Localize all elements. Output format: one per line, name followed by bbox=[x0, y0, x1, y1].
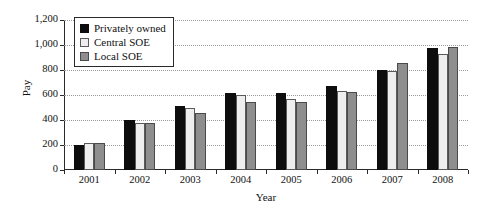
bar[interactable] bbox=[286, 99, 296, 170]
bar[interactable] bbox=[347, 92, 357, 170]
y-axis-tick-label: 400 bbox=[22, 114, 58, 124]
x-axis-tick-label: 2002 bbox=[129, 174, 150, 185]
legend-item[interactable]: Privately owned bbox=[80, 21, 166, 35]
x-axis-tick-label: 2006 bbox=[331, 174, 352, 185]
bar-group bbox=[225, 20, 256, 170]
bar-group bbox=[326, 20, 357, 170]
bar[interactable] bbox=[387, 71, 397, 170]
x-axis-tick-label: 2001 bbox=[79, 174, 100, 185]
legend-swatch-icon bbox=[80, 52, 89, 61]
x-axis-tick-label: 2008 bbox=[432, 174, 453, 185]
bar[interactable] bbox=[276, 93, 286, 171]
bar[interactable] bbox=[427, 48, 437, 171]
bar[interactable] bbox=[296, 102, 306, 170]
bar[interactable] bbox=[377, 70, 387, 170]
y-axis-tick-label: 1,200 bbox=[22, 14, 58, 24]
bar[interactable] bbox=[135, 123, 145, 170]
x-axis-label: Year bbox=[64, 191, 468, 203]
legend-label: Local SOE bbox=[94, 50, 143, 62]
bar[interactable] bbox=[185, 108, 195, 170]
legend-label: Central SOE bbox=[94, 36, 150, 48]
bar[interactable] bbox=[397, 63, 407, 171]
legend-label: Privately owned bbox=[94, 22, 166, 34]
bar[interactable] bbox=[84, 143, 94, 171]
x-axis-tick-label: 2007 bbox=[382, 174, 403, 185]
legend-swatch-icon bbox=[80, 38, 89, 47]
bar[interactable] bbox=[175, 106, 185, 170]
bar[interactable] bbox=[94, 143, 104, 171]
bar[interactable] bbox=[236, 95, 246, 170]
bar[interactable] bbox=[246, 102, 256, 170]
chart-legend: Privately ownedCentral SOELocal SOE bbox=[74, 17, 174, 67]
legend-item[interactable]: Central SOE bbox=[80, 35, 166, 49]
bar[interactable] bbox=[145, 123, 155, 171]
x-axis-tick-label: 2005 bbox=[281, 174, 302, 185]
bar-group bbox=[276, 20, 307, 170]
y-axis-tick-label: 200 bbox=[22, 139, 58, 149]
bar-chart-figure: Pay 02004006008001,0001,200 200120022003… bbox=[0, 0, 482, 214]
x-axis-tick-label: 2003 bbox=[180, 174, 201, 185]
bar[interactable] bbox=[326, 86, 336, 170]
bar[interactable] bbox=[124, 120, 134, 170]
bar-group bbox=[427, 20, 458, 170]
x-axis-tick-label: 2004 bbox=[230, 174, 251, 185]
y-axis-tick-label: 800 bbox=[22, 64, 58, 74]
x-axis-tick-labels: 20012002200320042005200620072008 bbox=[64, 174, 468, 190]
x-axis-tick-mark bbox=[468, 170, 469, 174]
legend-item[interactable]: Local SOE bbox=[80, 49, 166, 63]
bar[interactable] bbox=[438, 54, 448, 170]
bar-group bbox=[377, 20, 408, 170]
legend-swatch-icon bbox=[80, 24, 89, 33]
bar[interactable] bbox=[195, 113, 205, 171]
y-axis-tick-label: 0 bbox=[22, 164, 58, 174]
y-axis-tick-label: 1,000 bbox=[22, 39, 58, 49]
bar[interactable] bbox=[74, 145, 84, 170]
bar[interactable] bbox=[225, 93, 235, 171]
y-axis-tick-labels: 02004006008001,0001,200 bbox=[22, 0, 58, 214]
bar[interactable] bbox=[448, 47, 458, 170]
y-axis-tick-label: 600 bbox=[22, 89, 58, 99]
bar-group bbox=[175, 20, 206, 170]
bar[interactable] bbox=[337, 91, 347, 170]
